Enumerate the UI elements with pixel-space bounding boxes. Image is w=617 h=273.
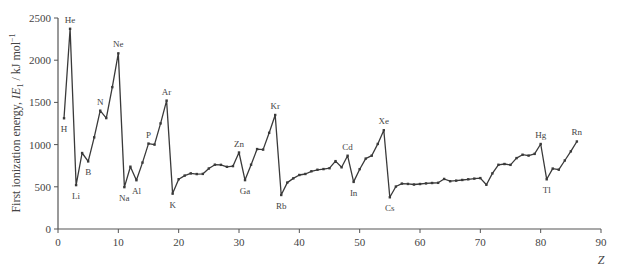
data-point xyxy=(358,168,360,170)
x-tick-label: 10 xyxy=(113,236,125,248)
y-tick-label: 1000 xyxy=(29,139,52,151)
data-point xyxy=(461,179,463,181)
chart-svg: 010203040506070809005001000150020002500 … xyxy=(0,0,617,273)
data-point xyxy=(262,148,264,150)
data-point xyxy=(527,154,529,156)
data-point xyxy=(232,165,234,167)
data-point xyxy=(274,114,276,116)
ionization-line xyxy=(64,29,577,198)
data-point xyxy=(443,178,445,180)
element-label-ne: Ne xyxy=(113,39,124,49)
element-label-al: Al xyxy=(132,186,141,196)
data-point xyxy=(226,166,228,168)
data-point xyxy=(377,143,379,145)
element-label-tl: Tl xyxy=(543,185,551,195)
data-point xyxy=(328,167,330,169)
data-point xyxy=(449,180,451,182)
y-tick-label: 0 xyxy=(46,223,52,235)
x-tick-label: 20 xyxy=(173,236,185,248)
data-point xyxy=(340,166,342,168)
data-point xyxy=(75,184,77,186)
data-point xyxy=(467,178,469,180)
data-point xyxy=(171,192,173,194)
data-point xyxy=(208,167,210,169)
element-label-n: N xyxy=(97,97,104,107)
data-point xyxy=(93,136,95,138)
x-tick-label: 70 xyxy=(475,236,487,248)
data-point xyxy=(497,164,499,166)
data-point xyxy=(485,184,487,186)
data-point xyxy=(202,173,204,175)
x-tick-label: 90 xyxy=(596,236,608,248)
x-tick-label: 80 xyxy=(535,236,547,248)
data-point xyxy=(69,28,71,30)
data-point xyxy=(250,163,252,165)
data-point xyxy=(455,179,457,181)
y-axis-label: First ionization energy, IE1 / kJ mol−1 xyxy=(8,33,25,212)
data-point xyxy=(503,163,505,165)
data-point xyxy=(576,140,578,142)
element-label-zn: Zn xyxy=(234,139,244,149)
data-point xyxy=(558,168,560,170)
data-point xyxy=(407,183,409,185)
data-point xyxy=(346,155,348,157)
data-point xyxy=(539,143,541,145)
element-label-h: H xyxy=(61,124,68,134)
data-point xyxy=(395,185,397,187)
data-point xyxy=(141,161,143,163)
data-point xyxy=(190,172,192,174)
data-point xyxy=(196,173,198,175)
data-point xyxy=(99,109,101,111)
data-point xyxy=(286,181,288,183)
data-point xyxy=(352,181,354,183)
data-point xyxy=(111,86,113,88)
data-point xyxy=(515,157,517,159)
data-point xyxy=(153,143,155,145)
data-point xyxy=(220,164,222,166)
data-point xyxy=(479,177,481,179)
element-label-rb: Rb xyxy=(276,201,287,211)
data-point xyxy=(87,160,89,162)
data-point xyxy=(81,152,83,154)
data-point xyxy=(304,173,306,175)
data-point xyxy=(244,179,246,181)
data-point xyxy=(564,159,566,161)
element-label-xe: Xe xyxy=(379,116,390,126)
x-tick-label: 50 xyxy=(354,236,366,248)
data-point xyxy=(546,178,548,180)
element-label-ga: Ga xyxy=(240,186,251,196)
data-point xyxy=(238,151,240,153)
data-point xyxy=(413,183,415,185)
data-point xyxy=(117,52,119,54)
element-label-k: K xyxy=(169,200,176,210)
element-label-in: In xyxy=(350,188,358,198)
element-label-p: P xyxy=(146,130,151,140)
y-tick-label: 1500 xyxy=(29,96,52,108)
data-point xyxy=(533,153,535,155)
data-point xyxy=(419,183,421,185)
data-point xyxy=(552,167,554,169)
data-point xyxy=(292,177,294,179)
data-point xyxy=(177,178,179,180)
element-label-kr: Kr xyxy=(270,101,280,111)
element-label-rn: Rn xyxy=(572,127,583,137)
data-point xyxy=(105,117,107,119)
data-point xyxy=(214,163,216,165)
data-point xyxy=(268,132,270,134)
data-point xyxy=(570,150,572,152)
data-point xyxy=(256,148,258,150)
element-label-ar: Ar xyxy=(162,87,172,97)
ionization-energy-chart: 010203040506070809005001000150020002500 … xyxy=(0,0,617,273)
element-label-cs: Cs xyxy=(385,203,395,213)
data-point xyxy=(147,142,149,144)
element-label-b: B xyxy=(85,167,91,177)
data-point xyxy=(437,182,439,184)
data-point xyxy=(491,172,493,174)
y-tick-label: 2000 xyxy=(29,54,52,66)
data-point xyxy=(425,182,427,184)
element-label-li: Li xyxy=(72,191,80,201)
element-label-hg: Hg xyxy=(535,130,546,140)
data-point xyxy=(509,164,511,166)
data-point xyxy=(383,129,385,131)
y-tick-label: 2500 xyxy=(29,12,52,24)
